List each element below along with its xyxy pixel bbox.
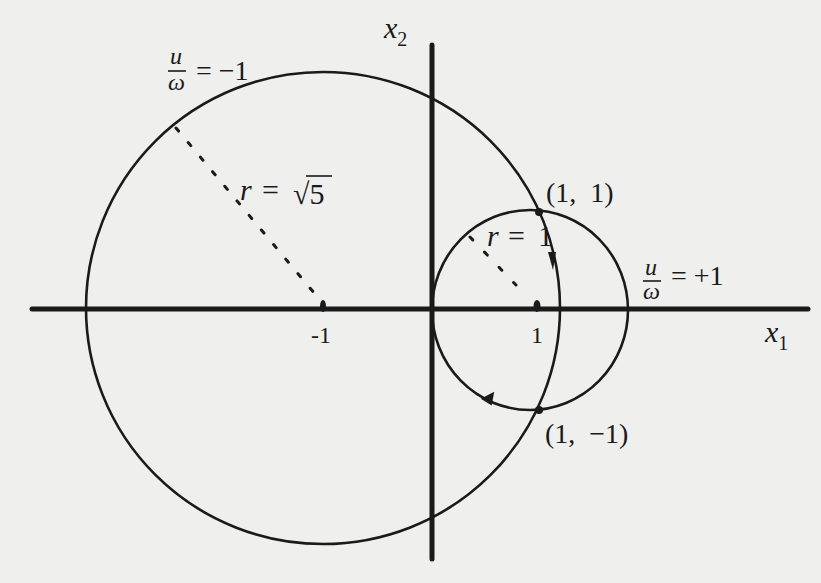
svg-text:u: u (645, 254, 657, 280)
large-circle-radius-label: r = √5 (240, 173, 332, 210)
svg-text:= −1: = −1 (196, 55, 249, 86)
svg-text:√5: √5 (293, 177, 324, 210)
svg-text:r: r (240, 173, 252, 206)
svg-text:=: = (508, 219, 525, 252)
svg-text:r: r (487, 219, 499, 252)
tick-minus-1 (320, 300, 326, 312)
x1-axis-label: x1 (764, 315, 788, 354)
x2-axis-label: x2 (383, 11, 407, 50)
small-circle-control-label: u ω = +1 (643, 254, 724, 304)
point-label-1-minus1: (1, −1) (545, 418, 628, 449)
tick-plus-1 (534, 300, 541, 312)
svg-text:ω: ω (643, 278, 660, 304)
svg-text:ω: ω (168, 69, 185, 95)
point-1-1 (535, 208, 543, 216)
tick-label-minus-1: -1 (311, 322, 331, 348)
tick-label-plus-1: 1 (531, 322, 543, 348)
diagram-canvas: x2 x1 -1 1 u ω = −1 r = √5 r = 1 u ω = +… (0, 0, 821, 583)
point-label-1-1: (1, 1) (546, 177, 614, 208)
small-circle-radius-label: r = 1 (487, 219, 553, 252)
svg-text:= +1: = +1 (671, 260, 724, 291)
point-1-minus1 (535, 406, 543, 414)
svg-text:u: u (170, 43, 182, 69)
svg-text:=: = (262, 173, 279, 206)
svg-text:1: 1 (538, 219, 553, 252)
radius-dots-large (176, 128, 320, 300)
phase-plane-diagram: x2 x1 -1 1 u ω = −1 r = √5 r = 1 u ω = +… (0, 0, 821, 583)
arrow-small-circle-icon (480, 392, 498, 408)
